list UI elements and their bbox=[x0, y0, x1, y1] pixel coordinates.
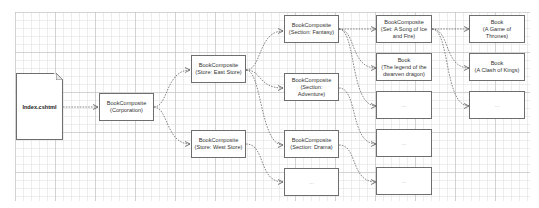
diagram-canvas: Index.cshtml BookComposite (Corporation)… bbox=[0, 0, 539, 208]
edge-set-clash bbox=[432, 29, 469, 68]
node-label: BookComposite (Corporation) bbox=[107, 100, 147, 114]
node-label: Book (A Game of Thrones) bbox=[472, 19, 522, 40]
node-book-clash-of-kings[interactable]: Book (A Clash of Kings) bbox=[469, 53, 525, 81]
node-label: ... bbox=[402, 102, 407, 109]
edge-east-fantasy bbox=[246, 31, 283, 70]
node-label: ... bbox=[495, 102, 500, 109]
node-west-store[interactable]: BookComposite (Store: West Store) bbox=[191, 130, 246, 158]
node-west-more[interactable]: ... bbox=[284, 168, 339, 196]
node-fantasy-more[interactable]: ... bbox=[376, 91, 432, 119]
node-label: BookComposite (Section: Fantasy) bbox=[289, 22, 334, 36]
edge-fantasy-more bbox=[339, 29, 376, 106]
edge-set-more bbox=[432, 29, 469, 106]
edge-east-adventure bbox=[246, 70, 283, 88]
node-east-store[interactable]: BookComposite (Store: East Store) bbox=[191, 55, 246, 83]
edge-east-drama bbox=[246, 70, 283, 145]
edge-fantasy-legend bbox=[339, 29, 376, 68]
node-corporation[interactable]: BookComposite (Corporation) bbox=[99, 93, 154, 121]
node-label: Index.cshtml bbox=[22, 104, 56, 110]
node-section-adventure[interactable]: BookComposite (Section: Adventure) bbox=[284, 73, 339, 101]
node-book-game-of-thrones[interactable]: Book (A Game of Thrones) bbox=[469, 15, 525, 43]
edge-corporation-west bbox=[154, 107, 190, 144]
node-section-fantasy[interactable]: BookComposite (Section: Fantasy) bbox=[284, 15, 339, 43]
node-label: ... bbox=[402, 140, 407, 147]
node-set-more[interactable]: ... bbox=[469, 91, 525, 119]
edge-drama-more bbox=[339, 145, 376, 182]
node-book-legend-dwarven-dragon[interactable]: Book (The legend of the dwarven dragon) bbox=[376, 53, 432, 81]
connectors bbox=[0, 0, 539, 208]
edge-corporation-east bbox=[154, 70, 190, 107]
node-drama-more[interactable]: ... bbox=[376, 167, 432, 195]
node-label: Book (The legend of the dwarven dragon) bbox=[381, 57, 426, 78]
edge-adventure-more bbox=[339, 88, 376, 144]
node-label: BookComposite (Section: Adventure) bbox=[287, 77, 336, 98]
node-label: Book (A Clash of Kings) bbox=[475, 60, 520, 74]
node-label: BookComposite (Store: East Store) bbox=[195, 62, 241, 76]
node-section-drama[interactable]: BookComposite (Section: Drama) bbox=[284, 130, 339, 158]
document-fold-icon bbox=[56, 73, 63, 80]
edge-west-more bbox=[246, 144, 283, 182]
node-label: BookComposite (Store: West Store) bbox=[195, 137, 243, 151]
node-set-song-of-ice-and-fire[interactable]: BookComposite (Set: A Song of Ice and Fi… bbox=[376, 15, 432, 43]
node-adventure-more[interactable]: ... bbox=[376, 129, 432, 157]
node-label: ... bbox=[402, 178, 407, 185]
node-index-document[interactable]: Index.cshtml bbox=[16, 73, 63, 140]
node-label: ... bbox=[309, 179, 314, 186]
node-label: BookComposite (Set: A Song of Ice and Fi… bbox=[381, 19, 427, 40]
node-label: BookComposite (Section: Drama) bbox=[290, 137, 332, 151]
